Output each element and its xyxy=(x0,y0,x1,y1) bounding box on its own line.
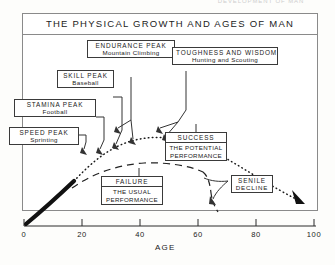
senile-decline-brace xyxy=(204,178,228,181)
callout-senile-decline[interactable]: SENILE DECLINE xyxy=(231,175,273,193)
x-tick-label-60: 60 xyxy=(186,230,210,239)
x-axis-label: AGE xyxy=(155,243,176,252)
callout-senile-decline-line1: SENILE xyxy=(232,176,272,184)
x-axis-ticks xyxy=(24,219,314,226)
callout-speed-peak[interactable]: SPEED PEAK Sprinting xyxy=(9,127,79,145)
callout-stamina-peak-line2: Football xyxy=(15,108,95,116)
x-tick-label-0: 0 xyxy=(12,230,36,239)
senile-decline-leader xyxy=(213,181,228,199)
callout-toughness-wisdom-line2: Hunting and Scouting xyxy=(173,56,277,64)
callout-success-line2: THE POTENTIAL PERFORMANCE xyxy=(166,143,226,160)
callout-speed-peak-line2: Sprinting xyxy=(10,136,78,144)
callout-skill-peak-line2: Baseball xyxy=(58,79,113,87)
callout-stamina-peak-line1: STAMINA PEAK xyxy=(15,100,95,108)
x-tick-label-100: 100 xyxy=(302,230,326,239)
callout-stamina-peak[interactable]: STAMINA PEAK Football xyxy=(14,99,96,117)
callout-toughness-wisdom-line1: TOUGHNESS AND WISDOM xyxy=(173,48,277,56)
callout-failure-line2: THE USUAL PERFORMANCE xyxy=(102,187,162,204)
callout-toughness-wisdom[interactable]: TOUGHNESS AND WISDOM Hunting and Scoutin… xyxy=(172,47,278,65)
callout-skill-peak[interactable]: SKILL PEAK Baseball xyxy=(57,70,114,88)
growth-curve-solid xyxy=(26,181,74,224)
callout-endurance-peak[interactable]: ENDURANCE PEAK Mountain Climbing xyxy=(87,40,175,58)
callout-skill-peak-line1: SKILL PEAK xyxy=(58,71,113,79)
callout-success[interactable]: SUCCESS THE POTENTIAL PERFORMANCE xyxy=(165,132,227,161)
x-tick-label-80: 80 xyxy=(244,230,268,239)
callout-endurance-peak-line2: Mountain Climbing xyxy=(88,49,174,57)
callout-senile-decline-line2: DECLINE xyxy=(232,184,272,192)
potential-curve-arrowhead xyxy=(292,190,305,204)
callout-success-line1: SUCCESS xyxy=(166,133,226,143)
x-tick-label-40: 40 xyxy=(128,230,152,239)
senile-decline-arrowhead xyxy=(209,196,216,205)
callout-failure-line1: FAILURE xyxy=(102,177,162,187)
figure-canvas: DEVELOPMENT OF MAN THE PHYSICAL GROWTH A… xyxy=(0,0,335,265)
callout-endurance-peak-line1: ENDURANCE PEAK xyxy=(88,41,174,49)
callout-failure[interactable]: FAILURE THE USUAL PERFORMANCE xyxy=(101,176,163,205)
x-tick-label-20: 20 xyxy=(70,230,94,239)
usual-performance-drop-dashed xyxy=(203,172,211,193)
callout-speed-peak-line1: SPEED PEAK xyxy=(10,128,78,136)
